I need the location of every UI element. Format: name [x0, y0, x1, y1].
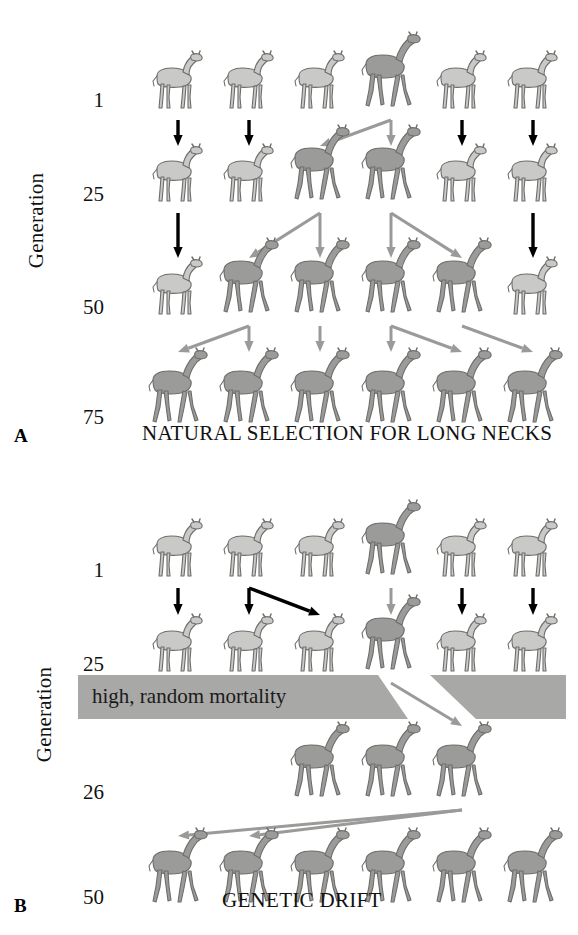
panel-b-caption: GENETIC DRIFT [222, 888, 382, 913]
generation-tick-a-25: 25 [58, 182, 104, 207]
generation-tick-b-1: 1 [58, 558, 104, 583]
generation-tick-b-50: 50 [58, 885, 104, 910]
generation-tick-b-26: 26 [58, 780, 104, 805]
giraffe-a-gen1-col2-shortneck [223, 50, 275, 112]
giraffe-a-gen50-col5-longneck [431, 240, 493, 318]
panel-letter-b: B [14, 895, 27, 917]
giraffe-b-gen26-col1-longneck [289, 724, 351, 802]
giraffe-b-gen50-col6-longneck [502, 830, 564, 908]
panel-a-caption: NATURAL SELECTION FOR LONG NECKS [142, 421, 552, 446]
giraffe-a-gen50-col2-longneck [218, 240, 280, 318]
giraffe-a-gen75-col3-longneck [289, 350, 351, 428]
giraffe-b-gen1-col3-shortneck [294, 518, 346, 580]
generation-tick-b-25: 25 [58, 652, 104, 677]
giraffe-a-gen1-col1-shortneck [152, 50, 204, 112]
giraffe-a-gen75-col6-longneck [502, 350, 564, 428]
giraffe-a-gen25-col2-shortneck [223, 143, 275, 205]
giraffe-a-gen50-col3-longneck [289, 240, 351, 318]
generation-tick-a-75: 75 [58, 405, 104, 430]
panel-b-genetic-drift: Generation 1 25 26 50 high, random morta… [0, 470, 578, 935]
giraffe-b-gen1-col5-shortneck [436, 518, 488, 580]
giraffe-a-gen25-col3-longneck [289, 127, 351, 205]
giraffe-b-gen25-col6-shortneck [507, 613, 559, 675]
y-axis-label-generation-a: Generation [24, 141, 49, 301]
panel-a-stage [0, 0, 578, 470]
giraffe-a-gen1-col6-shortneck [507, 50, 559, 112]
giraffe-a-gen1-col4-longneck [360, 34, 422, 112]
giraffe-b-gen1-col4-longneck [360, 502, 422, 580]
giraffe-a-gen75-col1-longneck [147, 350, 209, 428]
giraffe-b-gen25-col3-shortneck [294, 613, 346, 675]
giraffe-a-gen25-col5-shortneck [436, 143, 488, 205]
giraffe-b-gen25-col5-shortneck [436, 613, 488, 675]
giraffe-b-gen50-col5-longneck [431, 830, 493, 908]
giraffe-a-gen25-col1-shortneck [152, 143, 204, 205]
giraffe-b-gen1-col2-shortneck [223, 518, 275, 580]
giraffe-b-gen26-col3-longneck [431, 724, 493, 802]
mortality-band: high, random mortality [78, 675, 566, 719]
giraffe-b-gen25-col1-shortneck [152, 613, 204, 675]
giraffe-a-gen25-col4-longneck [360, 127, 422, 205]
panel-letter-a: A [14, 425, 28, 447]
y-axis-label-generation-b: Generation [32, 635, 57, 795]
giraffe-a-gen25-col6-shortneck [507, 143, 559, 205]
giraffe-a-gen75-col5-longneck [431, 350, 493, 428]
giraffe-a-gen1-col5-shortneck [436, 50, 488, 112]
giraffe-b-gen25-col4-longneck [360, 597, 422, 675]
giraffe-b-gen1-col6-shortneck [507, 518, 559, 580]
generation-tick-a-50: 50 [58, 295, 104, 320]
generation-tick-a-1: 1 [58, 88, 104, 113]
mortality-band-label: high, random mortality [92, 684, 286, 709]
giraffe-a-gen1-col3-shortneck [294, 50, 346, 112]
giraffe-a-gen75-col4-longneck [360, 350, 422, 428]
giraffe-a-gen75-col2-longneck [218, 350, 280, 428]
giraffe-a-gen50-col4-longneck [360, 240, 422, 318]
panel-a-natural-selection: Generation 1 25 50 75 A NATURAL SELECTIO… [0, 0, 578, 470]
giraffe-b-gen50-col1-longneck [147, 830, 209, 908]
giraffe-b-gen25-col2-shortneck [223, 613, 275, 675]
giraffe-b-gen26-col2-longneck [360, 724, 422, 802]
giraffe-a-gen50-col1-shortneck [152, 256, 204, 318]
giraffe-a-gen50-col6-shortneck [507, 256, 559, 318]
giraffe-b-gen1-col1-shortneck [152, 518, 204, 580]
